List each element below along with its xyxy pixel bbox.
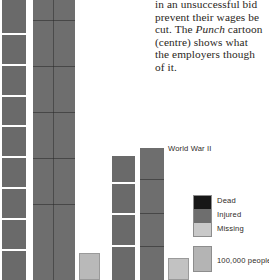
bar-segment <box>2 251 26 280</box>
legend-swatch-injured <box>194 209 211 222</box>
bar-segment <box>140 213 164 246</box>
scale-swatch <box>193 246 212 272</box>
bar-segment <box>112 215 135 245</box>
bar-segment <box>33 66 75 112</box>
bar-segment <box>2 66 26 95</box>
bar-segment <box>33 0 75 20</box>
casualties-bar-chart <box>0 0 269 280</box>
scale-label: 100,000 people <box>217 256 269 265</box>
bar-vertical-rule <box>53 0 54 280</box>
bar-segment <box>112 184 135 214</box>
bar-segment <box>112 247 135 280</box>
legend-labels: DeadInjuredMissing <box>217 194 244 236</box>
bar-ww2-missing <box>168 258 189 280</box>
bar-segment <box>33 20 75 66</box>
bar-segment <box>2 189 26 218</box>
page-root: in an unsuccessful bid prevent their wag… <box>0 0 269 280</box>
bar-segment <box>2 35 26 64</box>
bar-segment <box>2 127 26 156</box>
bar-segment <box>33 158 75 204</box>
legend-swatch-dead <box>194 196 211 209</box>
legend-label-dead: Dead <box>217 194 244 208</box>
bar-segment <box>2 220 26 249</box>
bar-segment <box>2 158 26 187</box>
bar-segment <box>140 179 164 212</box>
bar-ww1-missing <box>79 253 100 280</box>
bar-ww1-injured <box>33 0 75 280</box>
legend-label-missing: Missing <box>217 222 244 236</box>
bar-ww1-dead <box>2 0 26 280</box>
bar-ww2-dead <box>112 156 135 280</box>
world-war-2-label: World War II <box>168 144 212 153</box>
legend-label-injured: Injured <box>217 208 244 222</box>
bar-segment <box>33 112 75 158</box>
bar-segment <box>33 204 75 280</box>
bar-segment <box>140 148 164 179</box>
bar-segment <box>112 156 135 182</box>
bar-segment <box>2 0 26 33</box>
legend-swatch-stack <box>193 195 212 237</box>
bar-ww2-injured <box>140 148 164 280</box>
legend-swatch-missing <box>194 223 211 236</box>
bar-segment <box>2 97 26 126</box>
bar-segment <box>140 246 164 280</box>
